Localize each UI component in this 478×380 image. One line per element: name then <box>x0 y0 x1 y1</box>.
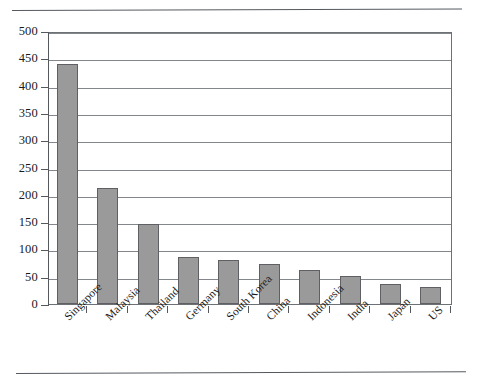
y-axis-label: 150 <box>4 216 38 229</box>
y-axis-label-slot: 500 <box>0 25 38 38</box>
x-axis-tick <box>288 306 289 313</box>
page-rule-bottom <box>16 371 466 374</box>
y-axis-tick <box>41 250 48 251</box>
y-axis-label: 300 <box>4 134 38 147</box>
y-axis-label-slot: 50 <box>0 271 38 284</box>
y-axis-label: 200 <box>4 189 38 202</box>
y-axis-tick <box>41 32 48 33</box>
gridline <box>49 115 451 116</box>
y-axis-label: 250 <box>4 162 38 175</box>
x-axis-tick <box>127 306 128 313</box>
x-axis-tick <box>329 306 330 313</box>
y-axis-label: 400 <box>4 80 38 93</box>
y-axis-tick <box>41 169 48 170</box>
y-axis-label: 350 <box>4 107 38 120</box>
x-axis-tick <box>248 306 249 313</box>
y-axis-label-slot: 450 <box>0 52 38 65</box>
x-axis-tick <box>86 306 87 313</box>
x-axis-label: US <box>426 303 445 322</box>
gridline <box>49 33 451 34</box>
y-axis-label-slot: 150 <box>0 216 38 229</box>
y-axis-tick <box>41 305 48 306</box>
bar <box>299 270 320 304</box>
y-axis-label: 500 <box>4 25 38 38</box>
bar <box>57 64 78 304</box>
y-axis-tick <box>41 59 48 60</box>
y-axis-label-slot: 250 <box>0 162 38 175</box>
x-axis-tick <box>208 306 209 313</box>
x-axis-tick <box>369 306 370 313</box>
page-rule-top <box>12 9 462 11</box>
y-axis-label-slot: 350 <box>0 107 38 120</box>
y-axis-label-slot: 400 <box>0 80 38 93</box>
y-axis-tick <box>41 278 48 279</box>
y-axis-tick <box>41 141 48 142</box>
y-axis-label-slot: 0 <box>0 298 38 311</box>
x-axis-tick <box>450 306 451 313</box>
y-axis-label-slot: 100 <box>0 243 38 256</box>
y-axis-label: 50 <box>4 271 38 284</box>
y-axis-label-slot: 200 <box>0 189 38 202</box>
y-axis-line <box>48 32 49 306</box>
gridline <box>49 60 451 61</box>
y-axis-tick <box>41 114 48 115</box>
bar <box>178 257 199 305</box>
y-axis-label-slot: 300 <box>0 134 38 147</box>
gridline <box>49 170 451 171</box>
gridline <box>49 142 451 143</box>
y-axis-tick <box>41 223 48 224</box>
y-axis-label: 450 <box>4 52 38 65</box>
bar <box>420 287 441 304</box>
y-axis-tick <box>41 196 48 197</box>
chart-plot-area <box>48 32 452 305</box>
y-axis-tick <box>41 87 48 88</box>
y-axis-label: 100 <box>4 243 38 256</box>
y-axis-label: 0 <box>4 298 38 311</box>
x-axis-tick <box>410 306 411 313</box>
x-axis-tick <box>167 306 168 313</box>
bar <box>218 260 239 304</box>
gridline <box>49 88 451 89</box>
